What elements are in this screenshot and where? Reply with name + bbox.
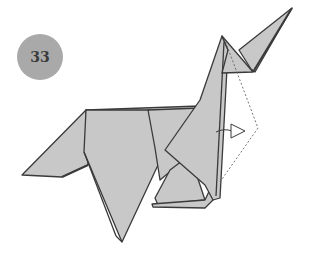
unicorn-body bbox=[22, 8, 292, 242]
tail bbox=[22, 110, 88, 177]
horn bbox=[239, 8, 292, 72]
origami-figure bbox=[0, 0, 312, 256]
